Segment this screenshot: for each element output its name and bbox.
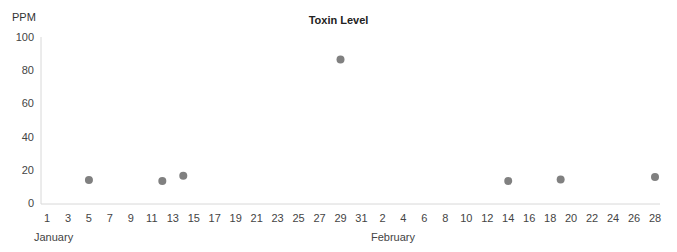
data-point[interactable] [651,173,659,181]
data-point[interactable] [557,176,565,184]
data-point[interactable] [85,176,93,184]
data-point[interactable] [179,172,187,180]
data-point[interactable] [337,56,345,64]
data-point[interactable] [158,177,166,185]
plot-area [0,0,677,252]
data-point[interactable] [504,177,512,185]
